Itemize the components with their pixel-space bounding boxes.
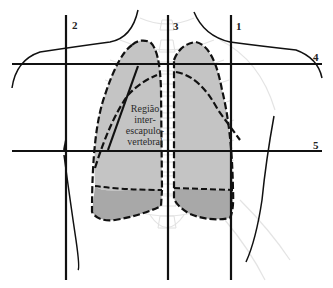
line-label-5: 5 xyxy=(313,140,319,151)
region-label-line-1: Região xyxy=(118,103,172,114)
line-label-2: 2 xyxy=(72,20,78,31)
line-label-4: 4 xyxy=(313,52,319,63)
line-label-1: 1 xyxy=(236,21,242,32)
region-label-line-2: inter- xyxy=(118,114,172,125)
region-label-interscapulovertebral: Região inter- escapulo- vertebral xyxy=(118,103,172,147)
region-label-line-4: vertebral xyxy=(118,136,172,147)
line-label-3: 3 xyxy=(173,21,179,32)
region-label-line-3: escapulo- xyxy=(118,125,172,136)
right-flank-contour xyxy=(246,116,274,262)
